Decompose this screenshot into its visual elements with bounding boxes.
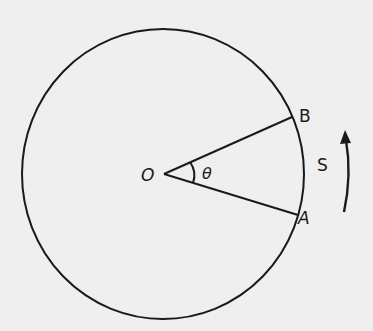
label-center-o: O	[141, 167, 154, 184]
radius-ob	[164, 117, 292, 174]
arc-length-diagram: O θ B A S	[0, 0, 373, 331]
circle	[22, 29, 304, 319]
angle-arc	[190, 162, 194, 183]
label-point-a: A	[298, 210, 310, 227]
label-point-b: B	[299, 108, 311, 125]
label-arc-s: S	[317, 157, 328, 174]
radius-oa	[164, 174, 298, 215]
direction-arrow-shaft	[344, 140, 349, 212]
arrow-up-icon	[340, 130, 351, 144]
label-angle-theta: θ	[202, 166, 212, 182]
